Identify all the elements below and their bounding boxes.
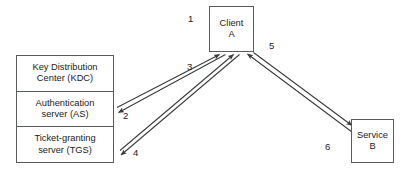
as-label-line2: server (AS) <box>41 109 88 120</box>
node-service-b: Service B <box>351 119 394 163</box>
node-client-a: Client A <box>209 6 254 52</box>
node-ticket-granting-server: Ticket-granting server (TGS) <box>17 127 113 162</box>
tgs-label-line1: Ticket-granting <box>34 133 95 144</box>
edge-label-3: 3 <box>187 62 192 72</box>
node-authentication-server: Authentication server (AS) <box>17 92 113 128</box>
arrow-4-client-to-tgs <box>121 55 240 156</box>
kdc-label-line2: Center (KDC) <box>37 73 93 84</box>
edge-label-4: 4 <box>133 148 138 158</box>
client-label-line2: A <box>228 29 234 40</box>
as-label-line1: Authentication <box>36 98 95 109</box>
service-label-line2: B <box>369 141 375 152</box>
arrow-1-as-to-client <box>117 55 220 108</box>
kdc-label-line1: Key Distribution <box>32 62 97 73</box>
arrow-6-service-to-client <box>248 54 353 132</box>
client-label-line1: Client <box>220 18 244 29</box>
tgs-label-line2: server (TGS) <box>38 145 92 156</box>
edge-label-5: 5 <box>269 41 274 51</box>
edge-label-2: 2 <box>123 111 128 121</box>
service-label-line1: Service <box>357 130 388 141</box>
node-key-distribution-center: Key Distribution Center (KDC) <box>17 56 113 92</box>
arrow-5-client-to-service <box>254 53 353 126</box>
edge-label-1: 1 <box>188 14 193 24</box>
edge-label-6: 6 <box>325 142 330 152</box>
arrow-2-client-to-as <box>119 55 226 113</box>
kdc-stack: Key Distribution Center (KDC) Authentica… <box>16 55 114 163</box>
kerberos-flow-diagram: Key Distribution Center (KDC) Authentica… <box>0 0 408 174</box>
